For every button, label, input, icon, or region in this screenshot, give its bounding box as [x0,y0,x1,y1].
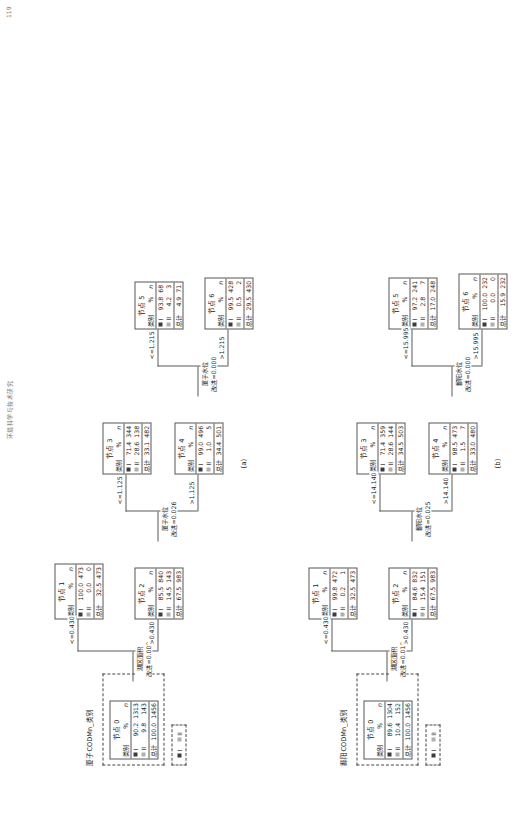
col-category: 类别 [146,602,155,618]
node-row-category: I [449,457,458,473]
node-row: I 71.4 344 [123,423,132,473]
total-label: 总计 [395,457,404,473]
col-count: n [186,423,195,439]
figure-page: 环境科学与技术研究 119 厦子CODMn_类别 I II 节点 0 类别 % … [0,0,526,819]
connector [227,329,228,366]
node-table: 类别 % n I 99.5 428 II 0.5 2 总计 29.5 430 [216,278,252,328]
node-title: 节点 4 [429,423,440,473]
panel-a-node-4[interactable]: 节点 4 类别 % n I 99.0 496 II 1.0 5 总计 34.4 … [174,422,223,474]
node-row: I 100.0 473 [75,564,84,618]
panel-a-node-1[interactable]: 节点 1 类别 % n I 100.0 473 II 0.0 0 总计 32.5… [54,563,103,619]
total-percent: 100.0 [148,720,157,742]
node-title: 节点 2 [135,568,146,618]
node-row-category: I [377,457,386,473]
col-percent: % [400,584,409,602]
node-row-total: 总计 100.0 1456 [402,701,411,758]
panel-b-node-1[interactable]: 节点 1 类别 % n I 99.8 472 II 0.2 1 总计 32.5 … [308,567,357,619]
node-row-count: 144 [386,423,395,439]
panel-a-branch-3-gt: >1.215 [217,335,226,360]
legend-item-2: II [174,732,183,742]
legend-swatch-icon [236,322,240,326]
node-row: I 90.2 1313 [130,701,139,758]
node-row-percent: 9.8 [139,720,148,742]
node-title: 节点 6 [459,274,470,328]
total-percent: 67.5 [427,584,436,602]
total-percent: 29.5 [243,294,252,312]
panel-b-node-5[interactable]: 节点 5 类别 % n I 97.2 241 II 2.8 7 总计 17.0 … [388,277,437,329]
node-table-header: 类别 % n [400,278,409,328]
panel-a-node-6[interactable]: 节点 6 类别 % n I 99.5 428 II 0.5 2 总计 29.5 … [204,277,253,329]
legend-swatch-icon [141,752,145,756]
panel-b-branch-3-le: <=15.995 [401,326,410,360]
col-category: 类别 [470,312,479,328]
node-row-category: I [130,742,139,758]
panel-a-split-3-variable: 厦子水位改进=0.000 [200,355,217,392]
panel-a-branch-1-le: <=0.430 [67,615,76,645]
panel-b-node-0[interactable]: 节点 0 类别 % n I 89.6 1304 II 10.4 152 总计 1… [363,700,412,759]
col-category: 类别 [440,457,449,473]
panel-a-node-0[interactable]: 节点 0 类别 % n I 90.2 1313 II 9.8 143 总计 10… [109,700,158,759]
col-percent: % [216,294,225,312]
node-row-percent: 1.0 [204,439,213,457]
panel-b-node-3[interactable]: 节点 3 类别 % n I 71.4 359 II 28.6 144 总计 34… [356,422,405,474]
legend-swatch-ii-icon [177,737,181,741]
node-row: I 99.0 496 [195,423,204,473]
node-row-count: 2 [234,278,243,294]
connector [77,619,78,651]
node-row-percent: 0.2 [338,584,347,602]
total-label: 总计 [148,742,157,758]
legend-swatch-icon [166,612,170,616]
legend-swatch-ii-icon [431,737,435,741]
node-row-total: 总计 15.9 232 [497,274,506,328]
node-row-category: II [84,602,93,618]
panel-b-node-4[interactable]: 节点 4 类别 % n I 98.5 473 II 1.5 7 总计 33.0 … [428,422,477,474]
node-row-count: 7 [458,423,467,439]
panel-a-node-2[interactable]: 节点 2 类别 % n I 85.5 840 II 14.5 143 总计 67… [134,567,183,619]
panel-a-branch-1-gt: >0.430 [147,620,156,645]
node-table-header: 类别 % n [320,568,329,618]
total-percent: 33.1 [141,439,150,457]
legend-swatch-icon [126,467,130,471]
node-row-percent: 28.6 [386,439,395,457]
node-row: II 4.2 3 [164,282,173,328]
node-row-count: 473 [75,564,84,580]
node-row-category: I [329,602,338,618]
connector [197,474,198,511]
total-count: 503 [395,423,404,439]
total-count: 473 [93,564,102,580]
total-percent: 32.5 [347,584,356,602]
node-row-percent: 99.0 [195,439,204,457]
col-count: n [320,568,329,584]
node-row-category: II [204,457,213,473]
connector [157,619,158,651]
total-percent: 17.0 [427,294,436,312]
node-row-percent: 0.5 [234,294,243,312]
panel-a-node-3[interactable]: 节点 3 类别 % n I 71.4 344 II 28.6 138 总计 33… [102,422,151,474]
node-row-percent: 2.8 [418,294,427,312]
connector [157,329,158,366]
panel-a-node-5[interactable]: 节点 5 类别 % n I 93.8 68 II 4.2 3 总计 4.9 71 [134,281,183,329]
legend-swatch-icon [86,612,90,616]
col-category: 类别 [216,312,225,328]
col-category: 类别 [186,457,195,473]
total-percent: 33.0 [467,439,476,457]
node-table-header: 类别 % n [375,701,384,758]
panel-a-root-variable-label: 厦子CODMn_类别 [85,709,94,765]
legend-swatch-icon [482,322,486,326]
node-row-total: 总计 33.0 480 [467,423,476,473]
panel-b-node-2[interactable]: 节点 2 类别 % n I 84.6 832 II 15.4 151 总计 67… [388,567,437,619]
node-row: I 99.5 428 [225,278,234,328]
node-table: 类别 % n I 98.5 473 II 1.5 7 总计 33.0 480 [440,423,476,473]
legend-swatch-icon [420,322,424,326]
node-table-header: 类别 % n [186,423,195,473]
panel-b-node-6[interactable]: 节点 6 类别 % n I 100.0 232 II 0.0 0 总计 15.9… [458,273,507,329]
node-row: I 98.5 473 [449,423,458,473]
total-label: 总计 [243,312,252,328]
total-label: 总计 [347,602,356,618]
node-row-count: 344 [123,423,132,439]
node-row-category: II [418,602,427,618]
node-row-category: II [139,742,148,758]
node-row-percent: 10.4 [393,720,402,742]
total-label: 总计 [402,742,411,758]
panel-b-caption: (b) [493,458,501,468]
